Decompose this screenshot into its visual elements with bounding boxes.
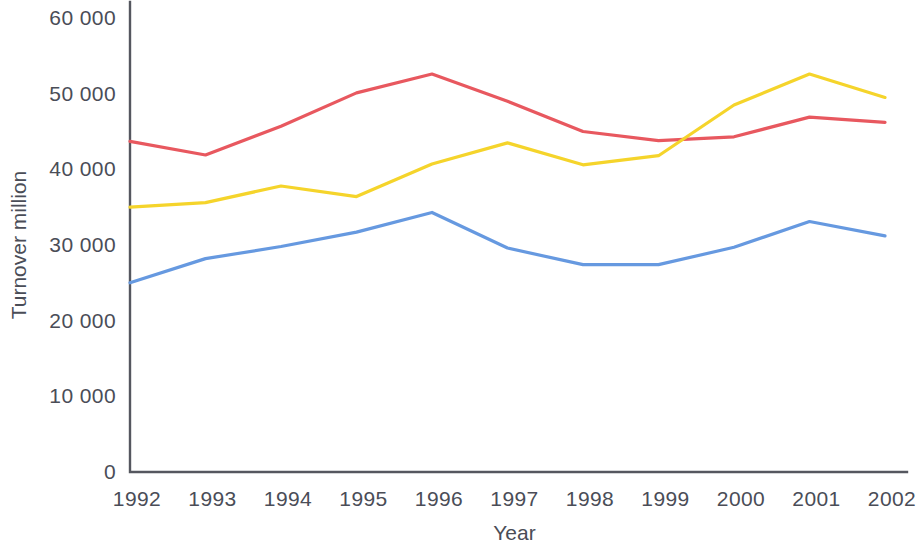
x-axis-title: Year (493, 521, 535, 544)
y-tick-label: 20 000 (49, 309, 116, 332)
chart-plot-area: 010 00020 00030 00040 00050 00060 000 19… (0, 0, 917, 546)
x-tick-label: 1998 (566, 487, 614, 510)
x-tick-label: 1992 (113, 487, 161, 510)
data-series-group (130, 74, 885, 283)
x-tick-label: 1999 (641, 487, 689, 510)
x-tick-label: 1993 (188, 487, 236, 510)
y-tick-label: 10 000 (49, 384, 116, 407)
line-series-blue (130, 212, 885, 282)
x-tick-label: 1994 (264, 487, 312, 510)
y-tick-label: 30 000 (49, 233, 116, 256)
y-tick-label: 40 000 (49, 157, 116, 180)
y-axis-title: Turnover million (7, 171, 30, 320)
x-tick-label: 1997 (490, 487, 538, 510)
y-tick-label: 60 000 (49, 6, 116, 29)
line-chart-figure: 010 00020 00030 00040 00050 00060 000 19… (0, 0, 917, 546)
x-tick-label: 2001 (792, 487, 840, 510)
x-tick-label: 2002 (868, 487, 916, 510)
x-tick-label: 1996 (415, 487, 463, 510)
y-tick-label: 50 000 (49, 82, 116, 105)
x-tick-label: 2000 (717, 487, 765, 510)
y-tick-label: 0 (104, 460, 116, 483)
chart-axes (130, 2, 907, 472)
x-axis-tick-labels: 1992199319941995199619971998199920002001… (113, 487, 916, 510)
x-tick-label: 1995 (339, 487, 387, 510)
y-axis-tick-labels: 010 00020 00030 00040 00050 00060 000 (49, 6, 116, 483)
axis-group (130, 2, 907, 472)
